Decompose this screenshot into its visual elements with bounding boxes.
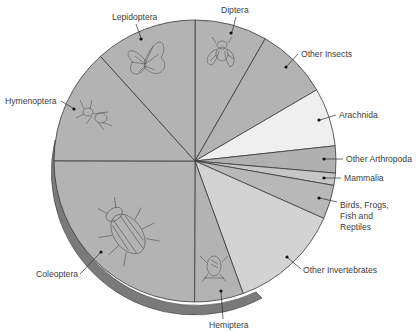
pie-slice-coleoptera [54, 161, 195, 302]
svg-text:Other Arthropoda: Other Arthropoda [346, 154, 412, 164]
svg-text:Fish and: Fish and [340, 211, 373, 221]
svg-text:Diptera: Diptera [221, 5, 249, 15]
species-pie-chart: Lepidoptera Diptera Other Insects Hymeno… [0, 0, 419, 332]
svg-text:Reptiles: Reptiles [340, 222, 371, 232]
pie-slices [54, 20, 336, 302]
label-other-invertebrates: Other Invertebrates [285, 255, 377, 275]
svg-text:Hemiptera: Hemiptera [209, 320, 249, 330]
svg-text:Hymenoptera: Hymenoptera [5, 96, 57, 106]
svg-text:Birds, Frogs,: Birds, Frogs, [340, 200, 389, 210]
svg-text:Lepidoptera: Lepidoptera [112, 12, 158, 22]
svg-text:Coleoptera: Coleoptera [36, 269, 78, 279]
svg-text:Arachnida: Arachnida [339, 110, 378, 120]
svg-text:Mammalia: Mammalia [344, 173, 384, 183]
svg-text:Other Invertebrates: Other Invertebrates [303, 265, 377, 275]
svg-text:Other Insects: Other Insects [301, 49, 352, 59]
